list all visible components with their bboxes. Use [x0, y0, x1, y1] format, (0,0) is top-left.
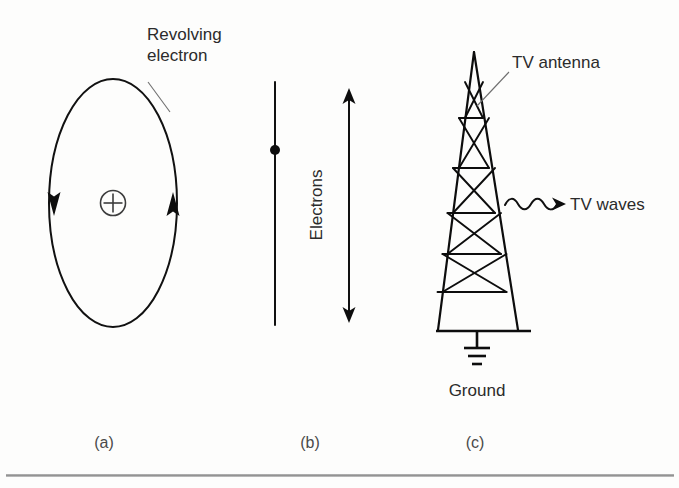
- panel-c-group: TV antenna TV waves Ground (c): [436, 52, 645, 451]
- physics-diagram: Revolving electron (a) Electrons (b): [0, 0, 679, 488]
- electrons-axis-label: Electrons: [307, 170, 326, 241]
- ground-label: Ground: [449, 381, 506, 400]
- panel-a-group: Revolving electron (a): [48, 25, 222, 451]
- tv-waves-label: TV waves: [570, 195, 645, 214]
- figure-canvas: Revolving electron (a) Electrons (b): [0, 0, 679, 488]
- tv-waves-icon: [505, 198, 566, 211]
- electron-dot-icon: [270, 145, 280, 155]
- tower-horizontal-braces: [438, 118, 507, 292]
- revolving-electron-leader-line: [148, 82, 170, 112]
- panel-c-caption: (c): [466, 434, 485, 451]
- tv-antenna-leader-line: [477, 72, 509, 106]
- revolving-electron-label-line1: Revolving: [147, 25, 222, 44]
- tower-x-braces: [443, 82, 507, 292]
- panel-a-caption: (a): [94, 434, 114, 451]
- ground-symbol-icon: [436, 331, 531, 364]
- tv-antenna-label: TV antenna: [512, 53, 600, 72]
- figure-bottom-rule: [6, 474, 674, 477]
- electrons-double-arrow-icon: [343, 88, 356, 323]
- nucleus-plus-icon: [101, 191, 126, 216]
- revolving-electron-label-line2: electron: [147, 46, 207, 65]
- panel-b-group: Electrons (b): [270, 82, 356, 451]
- panel-b-caption: (b): [300, 434, 320, 451]
